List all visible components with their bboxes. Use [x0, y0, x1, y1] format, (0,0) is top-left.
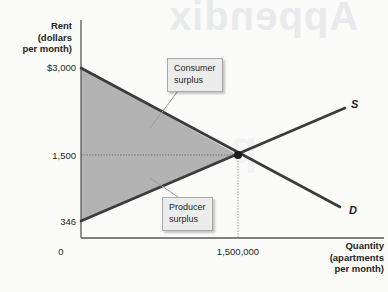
producer-surplus-callout: Producer surplus [162, 197, 213, 231]
x-tick-label-1500000: 1,500,000 [198, 246, 278, 257]
y-tick-label-346: 346 [16, 216, 76, 227]
consumer-surplus-callout: Consumer surplus [167, 58, 223, 92]
x-axis-title: Quantity (apartments per month) [292, 240, 384, 275]
y-tick-label-1500: 1,500 [16, 150, 76, 161]
supply-curve-label: S [351, 98, 358, 110]
y-tick-label-3000: $3,000 [16, 62, 76, 73]
supply-demand-figure: Appendix page Rent (dollars per month) Q… [0, 0, 388, 292]
demand-curve-label: D [349, 204, 357, 216]
origin-label: 0 [46, 246, 76, 257]
y-axis-title: Rent (dollars per month) [0, 20, 72, 55]
equilibrium-point [234, 151, 242, 159]
